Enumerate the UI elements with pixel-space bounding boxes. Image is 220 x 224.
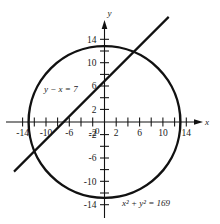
origin-label: 0 bbox=[95, 126, 100, 136]
coordinate-plane-figure: -14 -10 -6 -2 2 6 10 14 14 10 6 2 -2 -6 … bbox=[0, 0, 220, 224]
y-tick-label-2: 2 bbox=[92, 105, 97, 115]
y-tick-label--6: -6 bbox=[89, 153, 97, 163]
axes-group bbox=[6, 20, 203, 218]
y-tick-label-6: 6 bbox=[92, 81, 97, 91]
x-tick-label-10: 10 bbox=[158, 128, 168, 138]
y-tick-label--14: -14 bbox=[84, 200, 97, 210]
x-axis-name-label: x bbox=[204, 117, 209, 127]
x-tick-label-2: 2 bbox=[114, 128, 119, 138]
x-tick-label-6: 6 bbox=[137, 128, 142, 138]
y-axis-arrow-icon bbox=[102, 20, 108, 29]
y-axis-name-label: y bbox=[107, 8, 112, 18]
x-tick-label--14: -14 bbox=[16, 128, 29, 138]
line-equation-label: y − x = 7 bbox=[43, 84, 78, 94]
x-tick-label--10: -10 bbox=[40, 128, 53, 138]
x-tick-label--6: -6 bbox=[65, 128, 73, 138]
x-tick-labels: -14 -10 -6 -2 2 6 10 14 bbox=[16, 128, 191, 138]
y-tick-label-14: 14 bbox=[87, 35, 97, 45]
y-tick-label--10: -10 bbox=[84, 177, 97, 187]
y-tick-label-10: 10 bbox=[87, 58, 97, 68]
x-tick-label-14: 14 bbox=[182, 128, 192, 138]
circle-equation-label: x² + y² = 169 bbox=[121, 198, 171, 208]
x-axis-arrow-icon bbox=[194, 119, 203, 125]
